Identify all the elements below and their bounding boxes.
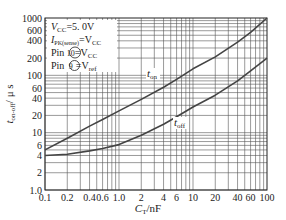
y-tick-label: 100 xyxy=(27,70,42,81)
y-tick-label: 20 xyxy=(32,110,42,121)
y-tick-label: 200 xyxy=(27,53,42,64)
x-tick-label: 20 xyxy=(210,192,220,203)
y-tick-label: 4 xyxy=(37,150,42,161)
y-tick-label: 400 xyxy=(27,35,42,46)
x-tick-label: 0.6 xyxy=(96,192,109,203)
y-tick-label: 40 xyxy=(32,93,42,104)
x-axis-label: CT/nF xyxy=(135,202,161,216)
x-tick-label: 1.0 xyxy=(113,192,126,203)
x-tick-label: 100 xyxy=(260,192,275,203)
x-tick-label: 40 xyxy=(233,192,243,203)
x-tick-label: 0.1 xyxy=(39,192,52,203)
x-tick-label: 60 xyxy=(246,192,256,203)
chart: 1.0246102040601002004006001000 0.10.20.4… xyxy=(0,0,286,220)
x-tick-label: 0.2 xyxy=(61,192,74,203)
x-tick-label: 6 xyxy=(174,192,179,203)
y-tick-label: 6 xyxy=(37,140,42,151)
y-tick-label: 600 xyxy=(27,25,42,36)
y-tick-label: 60 xyxy=(32,83,42,94)
y-tick-label: 10 xyxy=(32,127,42,138)
y-axis-label: ton-off/ μ s xyxy=(3,84,17,123)
x-tick-label: 10 xyxy=(188,192,198,203)
x-tick-label: 4 xyxy=(161,192,166,203)
y-tick-label: 2 xyxy=(37,167,42,178)
x-tick-label: 0.4 xyxy=(83,192,96,203)
y-tick-label: 1000 xyxy=(22,13,42,24)
y-axis-ticks: 1.0246102040601002004006001000 xyxy=(22,13,42,196)
